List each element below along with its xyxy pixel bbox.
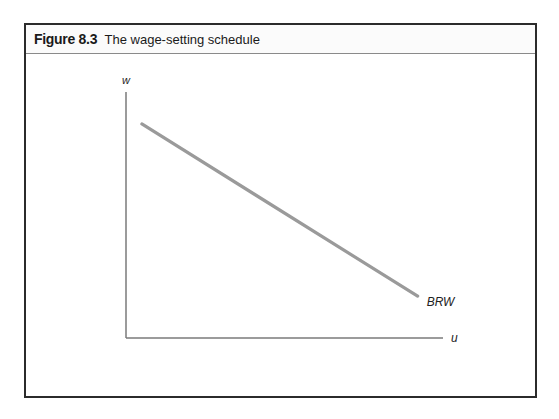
series-layer: BRW [142, 124, 456, 309]
series-line-brw [142, 124, 418, 296]
wage-setting-chart: w u BRW [0, 0, 559, 419]
y-axis-label: w [122, 74, 131, 86]
series-label-brw: BRW [427, 295, 456, 309]
x-axis-label: u [451, 331, 458, 345]
